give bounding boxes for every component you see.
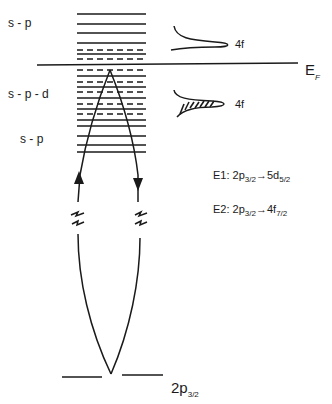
band-label-sp-lower: s - p — [20, 132, 44, 146]
4f-unoccupied-label: 4f — [235, 38, 245, 50]
arrow-up-icon — [74, 171, 84, 184]
axis-break-right-icon — [135, 212, 147, 225]
energy-level-diagram: s - p s - p - d s - p EF 4f 4f 2p3/2 — [0, 0, 332, 404]
band-label-spd: s - p - d — [8, 87, 49, 101]
band-levels — [77, 14, 146, 152]
arrow-down-icon — [133, 178, 143, 191]
fermi-level-line — [37, 63, 298, 65]
axis-break-left-icon — [71, 212, 84, 225]
4f-occupied-label: 4f — [235, 98, 245, 110]
core-level-label: 2p3/2 — [171, 379, 199, 399]
core-path-left — [78, 234, 111, 374]
4f-unoccupied-peak-icon — [171, 26, 228, 50]
transition-e2-label: E2: 2p3/2→4f7/2 — [213, 203, 288, 218]
band-label-sp-upper: s - p — [8, 16, 32, 30]
4f-occupied-peak-icon — [174, 90, 224, 117]
transition-e1-label: E1: 2p3/2→5d5/2 — [213, 169, 291, 184]
fermi-level-label: EF — [305, 61, 321, 82]
core-path-right — [111, 238, 140, 374]
